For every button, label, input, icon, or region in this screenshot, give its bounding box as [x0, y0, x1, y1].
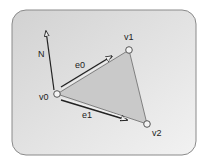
vertex-v1-marker: [126, 47, 133, 54]
triangle-diagram: N e0 e1 v0 v1 v2: [0, 0, 206, 163]
e0-label: e0: [75, 60, 85, 70]
vertex-v2-label: v2: [152, 128, 162, 138]
vertex-v1-label: v1: [124, 32, 134, 42]
e1-label: e1: [82, 110, 92, 120]
normal-label: N: [38, 49, 45, 59]
vertex-v2-marker: [144, 121, 151, 128]
vertex-v0-label: v0: [39, 92, 49, 102]
vertex-v0-marker: [54, 91, 61, 98]
